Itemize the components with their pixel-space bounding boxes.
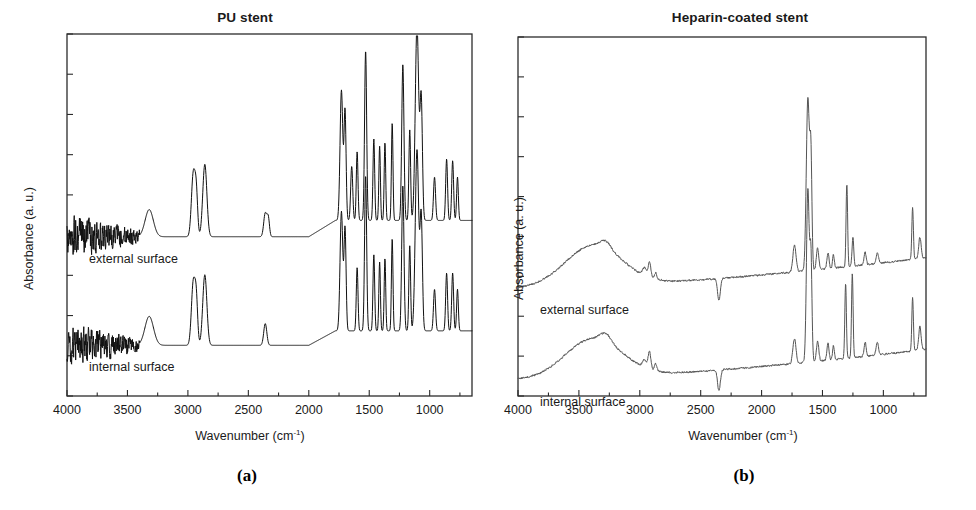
panel-a-x-axis-title-exponent: -1: [293, 428, 300, 437]
panel-a-y-axis-title: Absorbance (a. u.): [22, 187, 36, 290]
x-axis-tick-label: 2000: [748, 403, 776, 417]
trace-label-external: external surface: [89, 252, 178, 266]
panel-a-caption: (a): [0, 466, 490, 486]
x-axis-tick-label: 2500: [687, 403, 715, 417]
x-axis-tick-label: 1000: [869, 403, 897, 417]
x-axis-tick-label: 2500: [234, 403, 262, 417]
spectrum-trace-internal: [518, 188, 926, 390]
x-axis-tick-label: 1000: [416, 403, 444, 417]
panel-b-y-axis-title: Absorbance (a. u.): [512, 197, 526, 300]
x-axis-tick-label: 4000: [53, 403, 81, 417]
spectrum-trace-external: [518, 97, 926, 300]
spectrum-trace-external: [67, 36, 472, 255]
panel-b-x-axis-title: Wavenumber (cm-1): [486, 428, 976, 443]
x-axis-tick-label: 3000: [626, 403, 654, 417]
panel-b-x-axis-title-text: Wavenumber (cm: [688, 429, 786, 443]
panel-a-x-axis-title-paren: ): [301, 429, 305, 443]
trace-label-internal: internal surface: [89, 360, 175, 374]
panel-b-x-axis-title-paren: ): [794, 429, 798, 443]
panel-heparin-coated-stent: Heparin-coated stent 4000350030002500200…: [486, 0, 976, 510]
panel-pu-stent: PU stent 4000350030002500200015001000ext…: [0, 0, 490, 510]
x-axis-tick-label: 3500: [114, 403, 142, 417]
x-axis-tick-label: 2000: [295, 403, 323, 417]
trace-label-internal: internal surface: [540, 395, 626, 409]
x-axis-tick-label: 1500: [809, 403, 837, 417]
panel-b-caption: (b): [486, 466, 976, 486]
x-axis-tick-label: 3000: [174, 403, 202, 417]
figure-root: PU stent 4000350030002500200015001000ext…: [0, 0, 976, 510]
x-axis-tick-label: 4000: [504, 403, 532, 417]
trace-label-external: external surface: [540, 303, 629, 317]
panel-a-x-axis-title-text: Wavenumber (cm: [195, 429, 293, 443]
x-axis-tick-label: 1500: [355, 403, 383, 417]
panel-a-x-axis-title: Wavenumber (cm-1): [0, 428, 490, 443]
panel-b-x-axis-title-exponent: -1: [786, 428, 793, 437]
